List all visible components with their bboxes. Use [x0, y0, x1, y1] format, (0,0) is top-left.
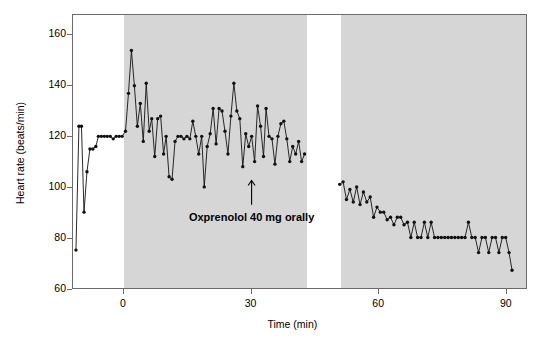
x-tick-label: 30: [239, 297, 263, 309]
y-tick-label: 140: [44, 78, 66, 90]
y-tick-label: 120: [44, 129, 66, 141]
heart-rate-chart: Heart rate (beats/min) Time (min) 608010…: [0, 0, 550, 338]
x-tick-label: 90: [494, 297, 518, 309]
y-tick-label: 80: [44, 231, 66, 243]
x-tick-label: 60: [366, 297, 390, 309]
y-axis-label: Heart rate (beats/min): [14, 101, 26, 203]
x-tick-mark: [378, 289, 379, 294]
x-axis-label: Time (min): [268, 318, 318, 330]
y-tick-mark: [67, 289, 72, 290]
x-tick-mark: [506, 289, 507, 294]
y-tick-label: 160: [44, 27, 66, 39]
x-tick-mark: [123, 289, 124, 294]
plot-area: Oxprenolol 40 mg orally: [72, 14, 527, 289]
x-tick-label: 0: [111, 297, 135, 309]
annotation-arrow: [73, 15, 527, 289]
y-tick-label: 100: [44, 180, 66, 192]
x-tick-mark: [251, 289, 252, 294]
y-tick-label: 60: [44, 282, 66, 294]
